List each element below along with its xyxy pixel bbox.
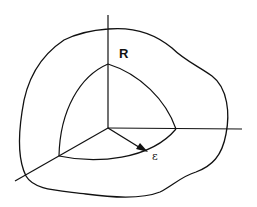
radius-arrow-shaft bbox=[108, 128, 142, 149]
x-axis bbox=[15, 128, 108, 181]
radius-label: ε bbox=[152, 151, 158, 162]
diagram-canvas: R ε bbox=[0, 0, 257, 207]
region-label: R bbox=[119, 47, 128, 60]
diagram-svg bbox=[0, 0, 257, 207]
sphere-arc-top-right bbox=[108, 64, 176, 129]
y-axis bbox=[108, 128, 242, 129]
radius-arrow-head-icon bbox=[136, 143, 148, 152]
